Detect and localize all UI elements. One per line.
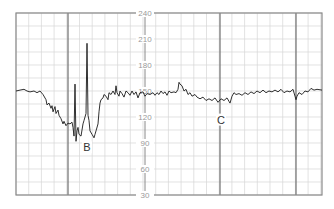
chart-background — [0, 0, 334, 209]
annotation-label-c: C — [217, 114, 225, 126]
fetal-heart-rate-chart: 240210180150120906030 BC — [0, 0, 334, 209]
y-tick-label: 90 — [141, 139, 150, 148]
y-tick-label: 60 — [141, 165, 150, 174]
annotation-label-b: B — [83, 141, 90, 153]
y-tick-label: 180 — [138, 61, 152, 70]
y-tick-label: 30 — [141, 191, 150, 200]
y-tick-label: 210 — [138, 35, 152, 44]
y-tick-label: 120 — [138, 113, 152, 122]
y-tick-label: 240 — [138, 9, 152, 18]
